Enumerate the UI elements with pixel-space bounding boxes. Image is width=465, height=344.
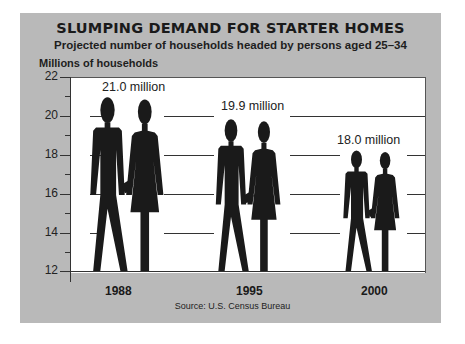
x-axis-baseline [71,271,425,272]
x-label-1988: 1988 [105,284,132,298]
y-tick-20: 20 [38,108,58,122]
value-label-1988: 21.0 million [102,80,165,94]
pictograph-1995 [212,120,288,271]
y-tick-14: 14 [38,225,58,239]
value-label-1995: 19.9 million [221,99,284,113]
y-axis-label: Millions of households [39,57,158,69]
x-label-2000: 2000 [361,284,388,298]
value-label-2000: 18.0 million [337,133,400,147]
y-tick-18: 18 [38,147,58,161]
y-tick-12: 12 [38,263,58,277]
y-tick-16: 16 [38,186,58,200]
y-tick-22: 22 [38,69,58,83]
y-axis-line [70,77,71,282]
source-note: Source: U.S. Census Bureau [0,301,465,311]
pictograph-1988 [86,98,172,271]
chart-subtitle: Projected number of households headed by… [20,39,441,51]
pictograph-2000 [340,151,406,271]
chart-title: SLUMPING DEMAND FOR STARTER HOMES [20,20,441,36]
x-label-1995: 1995 [236,284,263,298]
